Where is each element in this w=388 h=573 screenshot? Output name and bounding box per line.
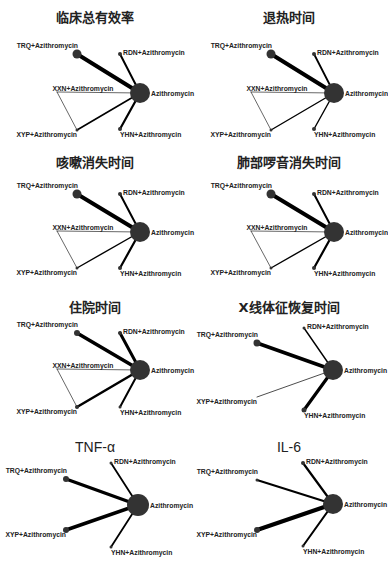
node-label-yhn: YHN+Azithromycin	[120, 131, 181, 139]
node-label-az: Azithromycin	[345, 90, 388, 98]
node-rdn	[312, 52, 316, 56]
node-rdn	[301, 461, 305, 465]
edge-az-trq	[66, 479, 138, 505]
node-label-rdn: RDN+Azithromycin	[306, 458, 368, 466]
node-rdn	[110, 462, 113, 465]
node-label-yhn: YHN+Azithromycin	[314, 270, 375, 278]
panel-title: X线体征恢复时间	[238, 300, 339, 315]
node-label-xyp: XYP+Azithromycin	[16, 131, 77, 139]
node-label-yhn: YHN+Azithromycin	[303, 548, 364, 556]
node-label-az: Azithromycin	[344, 501, 387, 509]
node-label-yhn: YHN+Azithromycin	[111, 549, 172, 557]
edge-az-xxn	[251, 231, 334, 232]
network-panel-lung-rales-time: 肺部啰音消失时间AzithromycinTRQ+AzithromycinRDN+…	[194, 145, 388, 290]
node-label-trq: TRQ+Azithromycin	[17, 42, 78, 50]
edge-az-trq	[257, 480, 333, 504]
node-trq	[74, 330, 80, 336]
node-label-xyp: XYP+Azithromycin	[16, 408, 77, 416]
network-graph: 退热时间AzithromycinTRQ+AzithromycinRDN+Azit…	[194, 0, 388, 145]
node-label-rdn: RDN+Azithromycin	[114, 458, 176, 466]
node-label-rdn: RDN+Azithromycin	[317, 49, 379, 57]
network-panel-fever-time: 退热时间AzithromycinTRQ+AzithromycinRDN+Azit…	[194, 0, 388, 145]
edge-az-trq	[257, 343, 333, 370]
node-trq	[256, 479, 259, 482]
node-az	[323, 360, 343, 380]
node-label-rdn: RDN+Azithromycin	[307, 323, 369, 331]
node-trq	[63, 476, 69, 482]
node-label-yhn: YHN+Azithromycin	[120, 409, 181, 417]
node-label-xxn: XXN+Azithromycin	[53, 224, 114, 232]
node-label-trq: TRQ+Azithromycin	[197, 331, 258, 339]
edge-az-xxn	[251, 92, 334, 93]
network-panel-clinical-efficacy: 临床总有效率AzithromycinTRQ+AzithromycinRDN+Az…	[0, 0, 194, 145]
node-label-trq: TRQ+Azithromycin	[211, 182, 272, 190]
node-label-xyp: XYP+Azithromycin	[210, 269, 271, 277]
node-rdn	[312, 192, 316, 196]
node-label-yhn: YHN+Azithromycin	[120, 270, 181, 278]
edge-xxn-xyp	[251, 231, 271, 268]
edge-az-xyp	[271, 93, 334, 130]
edge-xxn-xyp	[251, 92, 271, 130]
node-label-xyp: XYP+Azithromycin	[196, 398, 257, 406]
node-label-xxn: XXN+Azithromycin	[53, 362, 114, 370]
node-label-xyp: XYP+Azithromycin	[196, 531, 257, 539]
node-label-az: Azithromycin	[150, 502, 193, 510]
network-panel-cough-time: 咳嗽消失时间AzithromycinTRQ+AzithromycinRDN+Az…	[0, 145, 194, 290]
node-label-yhn: YHN+Azithromycin	[314, 131, 375, 139]
node-az	[323, 494, 343, 514]
network-panel-tnf-alpha: TNF-αAzithromycinTRQ+AzithromycinRDN+Azi…	[0, 430, 194, 573]
network-panel-il-6: IL-6AzithromycinTRQ+AzithromycinRDN+Azit…	[194, 430, 388, 573]
node-az	[130, 222, 150, 242]
panel-title: 肺部啰音消失时间	[237, 155, 341, 170]
node-rdn	[118, 52, 122, 56]
panel-title: 临床总有效率	[56, 10, 134, 25]
edge-xxn-xyp	[57, 369, 77, 407]
network-panel-xray-recovery: X线体征恢复时间AzithromycinTRQ+AzithromycinRDN+…	[194, 290, 388, 435]
node-trq	[254, 340, 261, 347]
node-trq	[267, 190, 276, 199]
node-trq	[73, 190, 82, 199]
node-label-trq: TRQ+Azithromycin	[211, 42, 272, 50]
node-rdn	[118, 331, 122, 335]
network-graph: 咳嗽消失时间AzithromycinTRQ+AzithromycinRDN+Az…	[0, 145, 194, 290]
network-graph: 肺部啰音消失时间AzithromycinTRQ+AzithromycinRDN+…	[194, 145, 388, 290]
network-graph: X线体征恢复时间AzithromycinTRQ+AzithromycinRDN+…	[194, 290, 388, 435]
node-az	[130, 83, 150, 103]
network-graph: TNF-αAzithromycinTRQ+AzithromycinRDN+Azi…	[0, 430, 194, 573]
node-label-xxn: XXN+Azithromycin	[247, 85, 308, 93]
network-panel-hospital-stay: 住院时间AzithromycinTRQ+AzithromycinRDN+Azit…	[0, 290, 194, 435]
node-label-xxn: XXN+Azithromycin	[53, 85, 114, 93]
node-trq	[267, 50, 276, 59]
panel-title: TNF-α	[75, 439, 115, 455]
node-label-rdn: RDN+Azithromycin	[123, 49, 185, 57]
network-graph: 住院时间AzithromycinTRQ+AzithromycinRDN+Azit…	[0, 290, 194, 435]
node-rdn	[303, 327, 306, 330]
edge-az-xxn	[57, 92, 140, 93]
node-az	[324, 222, 344, 242]
edge-az-xyp	[257, 504, 333, 530]
node-label-rdn: RDN+Azithromycin	[123, 189, 185, 197]
node-label-xyp: XYP+Azithromycin	[5, 531, 66, 539]
node-label-xxn: XXN+Azithromycin	[247, 224, 308, 232]
edge-az-xxn	[57, 231, 140, 232]
node-label-az: Azithromycin	[151, 90, 194, 98]
edge-xxn-xyp	[57, 92, 77, 130]
node-label-trq: TRQ+Azithromycin	[6, 467, 67, 475]
node-label-az: Azithromycin	[151, 229, 194, 237]
node-trq	[73, 50, 82, 59]
node-label-xyp: XYP+Azithromycin	[16, 269, 77, 277]
network-graph: 临床总有效率AzithromycinTRQ+AzithromycinRDN+Az…	[0, 0, 194, 145]
node-label-xyp: XYP+Azithromycin	[210, 131, 271, 139]
edge-xxn-xyp	[57, 231, 77, 268]
node-label-az: Azithromycin	[151, 367, 194, 375]
edge-az-xyp	[66, 505, 138, 530]
node-az	[130, 360, 150, 380]
node-label-yhn: YHN+Azithromycin	[304, 412, 365, 420]
node-label-az: Azithromycin	[345, 229, 388, 237]
panel-title: 住院时间	[69, 300, 121, 315]
node-az	[324, 83, 344, 103]
panel-title: IL-6	[277, 439, 301, 455]
node-label-trq: TRQ+Azithromycin	[17, 321, 78, 329]
panel-title: 咳嗽消失时间	[56, 155, 134, 170]
